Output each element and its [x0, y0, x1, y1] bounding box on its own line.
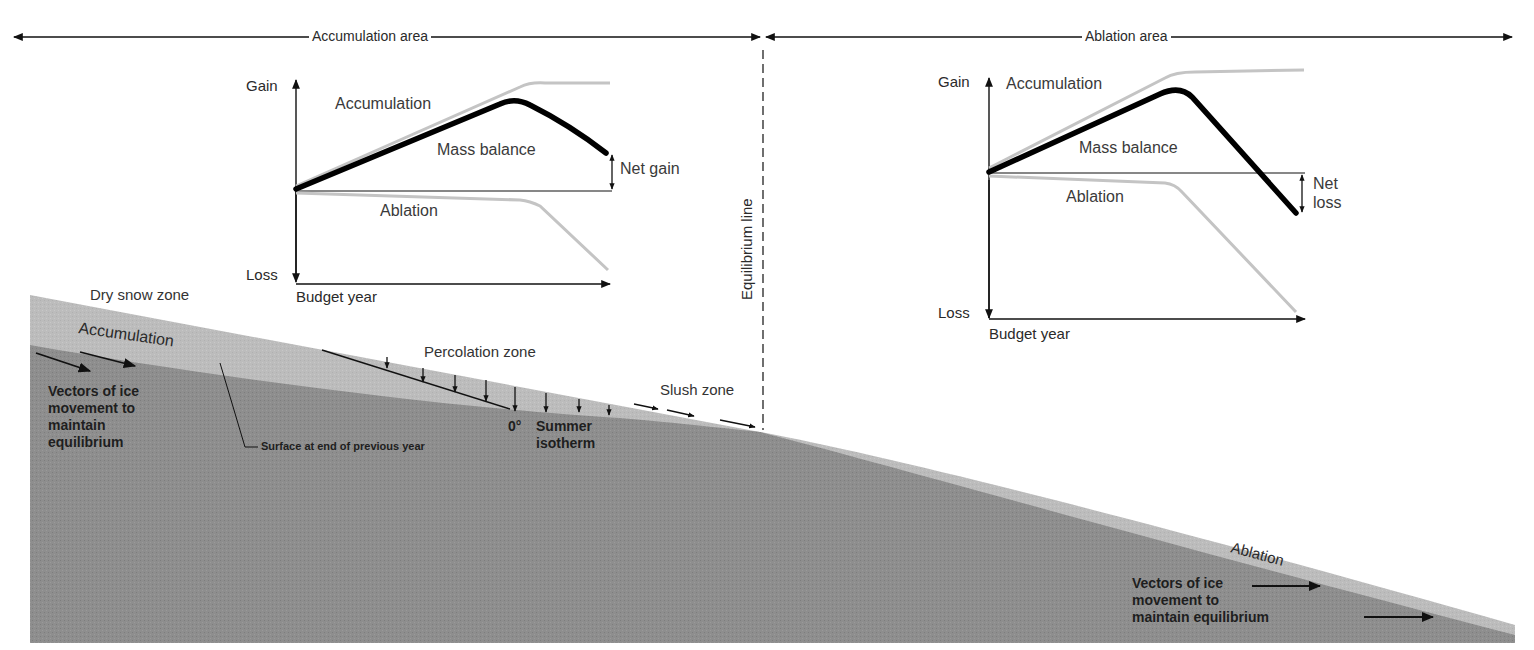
- isotherm-degree-label: 0°: [508, 418, 521, 435]
- percolation-zone-label: Percolation zone: [424, 343, 536, 360]
- left-ablation-curve-label: Ablation: [380, 202, 438, 220]
- vectors-right-label: Vectors of ice movement to maintain equi…: [1132, 575, 1269, 626]
- net-loss-line1: Net: [1313, 174, 1341, 193]
- vectors-right-line3: maintain equilibrium: [1132, 609, 1269, 626]
- vectors-left-line4: equilibrium: [48, 434, 139, 451]
- ablation-area-label: Ablation area: [1082, 28, 1171, 44]
- left-mass-balance-label: Mass balance: [437, 141, 536, 159]
- vectors-left-label: Vectors of ice movement to maintain equi…: [48, 383, 139, 451]
- right-accumulation-curve-label: Accumulation: [1006, 75, 1102, 93]
- left-gain-label: Gain: [246, 77, 278, 94]
- vectors-left-line1: Vectors of ice: [48, 383, 139, 400]
- right-ablation-curve-label: Ablation: [1066, 188, 1124, 206]
- left-budget-year-label: Budget year: [296, 288, 377, 305]
- slush-zone-label: Slush zone: [660, 381, 734, 398]
- vectors-left-line2: movement to: [48, 400, 139, 417]
- net-loss-label: Net loss: [1313, 174, 1341, 212]
- vectors-left-line3: maintain: [48, 417, 139, 434]
- left-accumulation-curve-label: Accumulation: [335, 95, 431, 113]
- right-mass-balance-chart: [989, 70, 1305, 319]
- ice-body: [30, 345, 1515, 643]
- net-loss-line2: loss: [1313, 193, 1341, 212]
- right-gain-label: Gain: [938, 73, 970, 90]
- right-budget-year-label: Budget year: [989, 325, 1070, 342]
- vectors-right-line2: movement to: [1132, 592, 1269, 609]
- glacier-mass-balance-diagram: Equilibrium line Accumulation Ablation: [0, 0, 1534, 650]
- dry-snow-zone-label: Dry snow zone: [90, 286, 189, 303]
- left-loss-label: Loss: [246, 266, 278, 283]
- vectors-right-line1: Vectors of ice: [1132, 575, 1269, 592]
- net-gain-label: Net gain: [620, 160, 680, 178]
- accumulation-area-label: Accumulation area: [309, 28, 431, 44]
- isotherm-line1: Summer: [536, 418, 595, 435]
- right-mass-balance-label: Mass balance: [1079, 139, 1178, 157]
- equilibrium-line-label: Equilibrium line: [738, 198, 755, 300]
- right-loss-label: Loss: [938, 304, 970, 321]
- summer-isotherm-label: Summer isotherm: [536, 418, 595, 452]
- previous-surface-label: Surface at end of previous year: [261, 440, 425, 452]
- isotherm-line2: isotherm: [536, 435, 595, 452]
